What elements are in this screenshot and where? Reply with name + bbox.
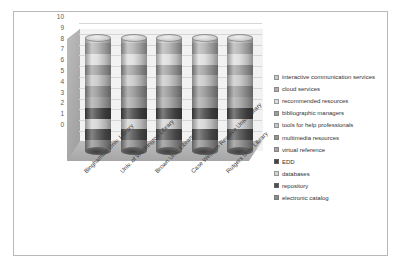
legend-item[interactable]: databases: [274, 168, 399, 180]
legend-label: virtual reference: [282, 147, 325, 153]
legend-label: tools for help professionals: [282, 122, 353, 128]
legend-item[interactable]: recommended resources: [274, 95, 399, 107]
legend-item[interactable]: interactive communication services: [274, 71, 399, 83]
legend-swatch: [274, 111, 279, 116]
legend-item[interactable]: virtual reference: [274, 144, 399, 156]
x-axis-label: Rutgers Univ. Library: [225, 130, 269, 174]
legend-swatch: [274, 171, 279, 176]
legend-label: repository: [282, 183, 308, 189]
legend-label: databases: [282, 171, 310, 177]
legend-swatch: [274, 183, 279, 188]
x-axis-label: Brown Univ. Library: [154, 133, 195, 174]
legend-swatch: [274, 123, 279, 128]
legend-swatch: [274, 99, 279, 104]
legend-item[interactable]: cloud services: [274, 83, 399, 95]
legend-label: recommended resources: [282, 98, 348, 104]
legend-swatch: [274, 147, 279, 152]
legend-item[interactable]: bibliographic managers: [274, 107, 399, 119]
x-axis-label: Case Western Reserve Univ. Library: [190, 102, 263, 175]
legend-swatch: [274, 195, 279, 200]
legend-label: cloud services: [282, 86, 320, 92]
chart-legend: interactive communication servicescloud …: [274, 71, 399, 204]
chart-frame: 012345678910 Binghamton Univ. LibraryUni…: [13, 11, 388, 256]
legend-label: interactive communication services: [282, 74, 375, 80]
legend-item[interactable]: repository: [274, 180, 399, 192]
legend-item[interactable]: electronic catalog: [274, 192, 399, 204]
legend-item[interactable]: EDD: [274, 156, 399, 168]
legend-item[interactable]: tools for help professionals: [274, 119, 399, 131]
legend-label: EDD: [282, 159, 295, 165]
legend-label: electronic catalog: [282, 195, 329, 201]
legend-swatch: [274, 87, 279, 92]
legend-swatch: [274, 135, 279, 140]
legend-swatch: [274, 159, 279, 164]
legend-label: multimedia resources: [282, 135, 339, 141]
legend-item[interactable]: multimedia resources: [274, 131, 399, 143]
legend-label: bibliographic managers: [282, 110, 344, 116]
legend-swatch: [274, 75, 279, 80]
